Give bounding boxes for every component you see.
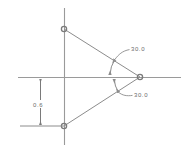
angle-leader-upper <box>115 50 130 60</box>
angle-leader-lower <box>119 92 133 96</box>
angle-upper-label: 30.0 <box>131 46 145 52</box>
angle-lower-label: 30.0 <box>134 92 148 98</box>
angle-arc-lower <box>114 79 118 92</box>
axes-group <box>18 8 181 145</box>
drawing-canvas: 30.0 30.0 0.6 <box>0 0 183 148</box>
linear-dimension-vertical: 0.6 <box>20 78 64 127</box>
technical-drawing-svg: 30.0 30.0 0.6 <box>0 0 183 148</box>
upper-edge <box>64 29 140 77</box>
angle-dimension-lower: 30.0 <box>114 79 148 98</box>
angle-dimension-upper: 30.0 <box>110 46 145 75</box>
linear-dimension-label: 0.6 <box>33 102 43 108</box>
lower-edge <box>64 77 140 126</box>
angle-arc-upper <box>110 60 115 75</box>
